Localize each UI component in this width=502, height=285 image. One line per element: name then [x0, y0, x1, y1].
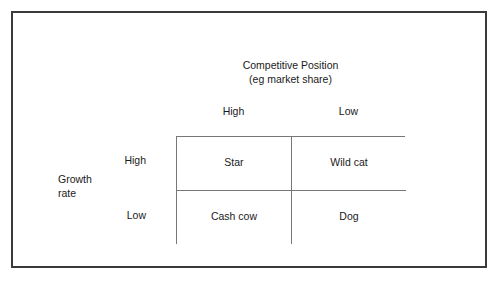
matrix-cell-wild-cat: Wild cat: [292, 137, 406, 191]
column-axis-title-line-2: (eg market share): [176, 72, 405, 86]
column-header-high: High: [176, 104, 291, 118]
column-header-low: Low: [291, 104, 406, 118]
matrix-cell-dog-label: Dog: [339, 210, 358, 222]
column-axis-title: Competitive Position (eg market share): [176, 58, 405, 86]
matrix-cell-dog: Dog: [292, 191, 406, 244]
matrix-cell-star-label: Star: [224, 156, 243, 168]
matrix-cell-star: Star: [177, 137, 292, 191]
row-header-high: High: [96, 153, 146, 167]
row-axis-title-line-1: Growth: [58, 172, 92, 186]
matrix-cell-wild-cat-label: Wild cat: [330, 156, 367, 168]
row-axis-title: Growth rate: [58, 172, 92, 200]
matrix-grid: Star Wild cat Cash cow Dog: [176, 136, 405, 244]
column-axis-title-line-1: Competitive Position: [176, 58, 405, 72]
matrix-cell-cash-cow-label: Cash cow: [211, 210, 257, 222]
row-header-low: Low: [96, 208, 146, 222]
row-axis-title-line-2: rate: [58, 186, 92, 200]
figure-outer-frame: Competitive Position (eg market share) H…: [11, 11, 487, 268]
matrix-cell-cash-cow: Cash cow: [177, 191, 292, 244]
